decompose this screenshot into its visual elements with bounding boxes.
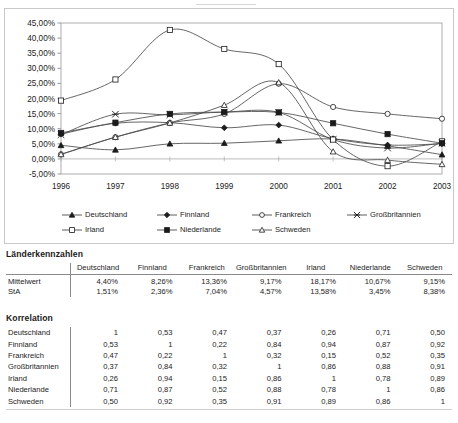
legend-label: Irland [83, 226, 104, 234]
table-cell: 0,15 [289, 350, 344, 361]
table-cell: 0,92 [398, 338, 453, 349]
table-cell: 0,87 [125, 384, 180, 395]
korrelation-title: Korrelation [6, 313, 53, 323]
table-cell: 0,92 [125, 395, 180, 406]
table-cell: 0,71 [343, 327, 398, 338]
svg-text:45,00%: 45,00% [27, 19, 55, 28]
table-cell: 0,87 [343, 338, 398, 349]
legend-row-2: IrlandNiederlandeSchweden [5, 222, 455, 237]
table-cell: 9,15% [398, 274, 453, 286]
table-cell: 0,47 [71, 350, 126, 361]
table-cell: 2,36% [125, 286, 180, 297]
table-cell: 7,04% [180, 286, 235, 297]
laenderkennzahlen-title: Länderkennzahlen [6, 249, 83, 259]
legend-item-deutschland: Deutschland [61, 210, 156, 220]
table-cell: 1 [343, 384, 398, 395]
table-row: Mittelwert4,40%8,26%13,36%9,17%18,17%10,… [6, 274, 452, 286]
table-cell: 0,88 [343, 361, 398, 372]
open-square-icon [61, 225, 83, 235]
table-cell: 1 [180, 350, 235, 361]
svg-text:1999: 1999 [215, 182, 234, 191]
svg-text:-5,00%: -5,00% [29, 170, 55, 179]
row-header: Deutschland [6, 327, 71, 338]
svg-text:5,00%: 5,00% [32, 140, 55, 149]
table-cell: 0,47 [180, 327, 235, 338]
row-header: Großbritannien [6, 361, 71, 372]
row-header: Mittelwert [6, 274, 71, 286]
column-header: Niederlande [343, 263, 398, 274]
table-cell: 0,22 [125, 350, 180, 361]
table-cell: 0,22 [180, 338, 235, 349]
svg-text:25,00%: 25,00% [27, 79, 55, 88]
table-cell: 0,35 [398, 350, 453, 361]
table-cell: 0,37 [71, 361, 126, 372]
column-header: Finnland [125, 263, 180, 274]
table-cell: 1 [234, 361, 289, 372]
table-row: Deutschland10,530,470,370,260,710,50 [6, 327, 452, 338]
chart-legend: DeutschlandFinnlandFrankreichGroßbritann… [5, 207, 455, 243]
legend-item-niederlande: Niederlande [156, 225, 251, 235]
filled-diamond-icon [156, 210, 178, 220]
table-cell: 0,15 [180, 373, 235, 384]
bottom-divider [6, 409, 452, 410]
table-cell: 0,37 [234, 327, 289, 338]
table-cell: 0,88 [234, 384, 289, 395]
table-cell: 3,45% [343, 286, 398, 297]
legend-item-grobritannien: Großbritannien [346, 210, 446, 220]
table-cell: 0,86 [398, 384, 453, 395]
table-cell: 4,57% [234, 286, 289, 297]
table-cell: 0,52 [180, 384, 235, 395]
legend-label: Frankreich [273, 211, 311, 219]
table-cell: 1 [125, 338, 180, 349]
table-cell: 0,26 [71, 373, 126, 384]
table-cell: 0,89 [289, 395, 344, 406]
svg-text:0,00%: 0,00% [32, 155, 55, 164]
svg-text:2003: 2003 [433, 182, 452, 191]
column-header: Irland [289, 263, 344, 274]
table-cell: 0,84 [234, 338, 289, 349]
svg-text:40,00%: 40,00% [27, 34, 55, 43]
table-cell: 1 [71, 327, 126, 338]
table-cell: 1 [289, 373, 344, 384]
svg-text:1998: 1998 [161, 182, 180, 191]
svg-text:30,00%: 30,00% [27, 64, 55, 73]
korrelation-table: Deutschland10,530,470,370,260,710,50Finn… [6, 327, 452, 407]
report-page: 45,00%40,00%35,00%30,00%25,00%20,00%15,0… [0, 0, 458, 423]
svg-text:1996: 1996 [52, 182, 71, 191]
svg-text:2000: 2000 [270, 182, 289, 191]
table-cell: 1 [398, 395, 453, 406]
table-row: Irland0,260,940,150,8610,780,89 [6, 373, 452, 384]
table-cell: 0,53 [125, 327, 180, 338]
svg-text:35,00%: 35,00% [27, 49, 55, 58]
laenderkennzahlen-table: DeutschlandFinnlandFrankreichGroßbritann… [6, 263, 452, 297]
table-cell: 13,58% [289, 286, 344, 297]
table-row: Schweden0,500,920,350,910,890,861 [6, 395, 452, 406]
table-cell: 0,78 [289, 384, 344, 395]
table-cell: 13,36% [180, 274, 235, 286]
table-cell: 0,86 [289, 361, 344, 372]
table-cell: 18,17% [289, 274, 344, 286]
svg-text:10,00%: 10,00% [27, 125, 55, 134]
table-row: StA1,51%2,36%7,04%4,57%13,58%3,45%8,38% [6, 286, 452, 297]
svg-text:15,00%: 15,00% [27, 110, 55, 119]
table-cell: 0,89 [398, 373, 453, 384]
legend-item-finnland: Finnland [156, 210, 251, 220]
legend-label: Großbritannien [368, 211, 421, 219]
legend-item-frankreich: Frankreich [251, 210, 346, 220]
svg-text:20,00%: 20,00% [27, 95, 55, 104]
table-cell: 9,17% [234, 274, 289, 286]
svg-text:1997: 1997 [106, 182, 125, 191]
table-cell: 0,94 [289, 338, 344, 349]
asterisk-icon [346, 210, 368, 220]
legend-label: Schweden [273, 226, 310, 234]
table-cell: 10,67% [343, 274, 398, 286]
table-cell: 1,51% [71, 286, 126, 297]
table-cell: 0,50 [71, 395, 126, 406]
laenderkennzahlen-body: Mittelwert4,40%8,26%13,36%9,17%18,17%10,… [6, 274, 452, 297]
table-cell: 0,78 [343, 373, 398, 384]
table-cell: 0,94 [125, 373, 180, 384]
row-header: Niederlande [6, 384, 71, 395]
legend-item-schweden: Schweden [251, 225, 346, 235]
table-row: Finnland0,5310,220,840,940,870,92 [6, 338, 452, 349]
legend-label: Finnland [178, 211, 209, 219]
